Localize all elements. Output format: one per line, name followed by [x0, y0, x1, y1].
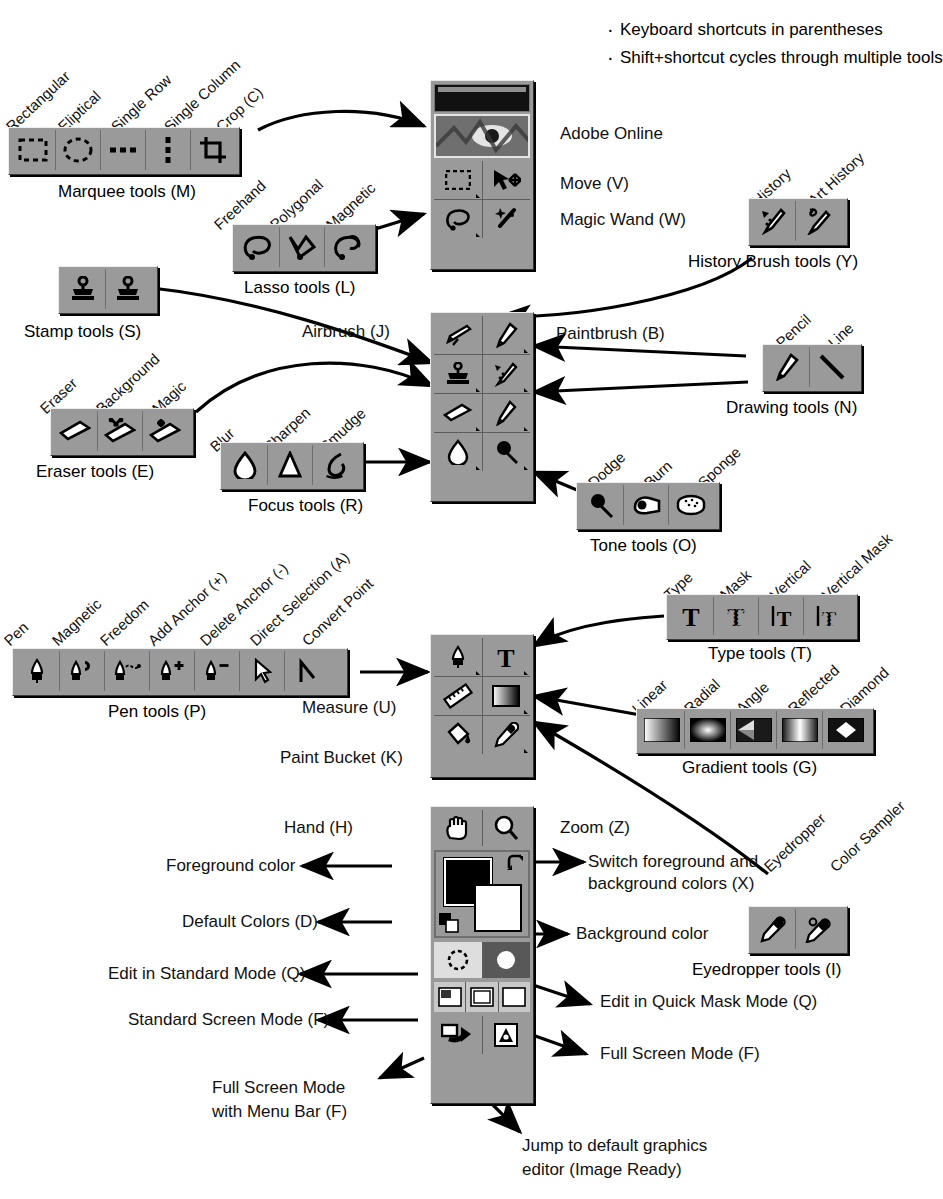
full-screen-mode-button[interactable]	[466, 982, 497, 1012]
tool-elliptical-marquee[interactable]	[55, 130, 100, 170]
tool-convert-point[interactable]	[284, 651, 329, 691]
tool-marquee[interactable]	[434, 161, 482, 199]
tool-magic-wand[interactable]	[483, 200, 531, 238]
tool-color-sampler[interactable]	[795, 909, 840, 949]
tool-pen[interactable]	[434, 638, 482, 676]
toolbox-vector-grid[interactable]: T	[434, 638, 530, 754]
tool-eraser[interactable]	[434, 394, 482, 432]
stamp-tools-strip[interactable]	[58, 266, 158, 314]
mask-mode-grid[interactable]	[434, 942, 530, 978]
type-tools-caption: Type tools (T)	[708, 644, 812, 664]
tool-linear-gradient[interactable]	[639, 711, 684, 749]
tool-vertical-type[interactable]: T	[758, 597, 803, 635]
tool-background-eraser[interactable]	[97, 411, 142, 451]
tool-type[interactable]: T	[669, 597, 713, 635]
jump-to-grid[interactable]	[434, 1016, 530, 1054]
tool-radial-gradient[interactable]	[684, 711, 730, 749]
focus-tools-strip[interactable]	[220, 442, 364, 490]
tool-eraser[interactable]	[53, 411, 97, 451]
switch-colors-icon[interactable]	[506, 854, 526, 872]
pen-tools-strip[interactable]	[12, 648, 348, 696]
drawing-tools-strip[interactable]	[762, 344, 862, 392]
tool-crop[interactable]	[190, 130, 235, 170]
history-brush-tools-strip[interactable]	[748, 198, 848, 246]
tool-vertical-type-mask[interactable]: T	[803, 597, 848, 635]
tool-blur[interactable]	[223, 445, 267, 485]
imageready-icon[interactable]	[483, 1016, 531, 1054]
toolbox-bottom-panel[interactable]	[430, 806, 534, 1104]
tone-tools-strip[interactable]	[576, 482, 720, 530]
eraser-tools-strip[interactable]	[50, 408, 194, 456]
edit-standard-mode-button[interactable]	[434, 942, 482, 978]
callout-magic-wand: Magic Wand (W)	[560, 210, 686, 230]
tool-direct-selection[interactable]	[239, 651, 284, 691]
tool-add-anchor-point[interactable]	[149, 651, 194, 691]
tool-paint-bucket[interactable]	[434, 716, 482, 754]
tool-angle-gradient[interactable]	[730, 711, 776, 749]
standard-screen-mode-button[interactable]	[434, 982, 465, 1012]
background-color-swatch[interactable]	[474, 884, 522, 932]
tool-eyedropper[interactable]	[751, 909, 795, 949]
tool-smudge[interactable]	[312, 445, 357, 485]
tool-type-mask[interactable]: T	[713, 597, 758, 635]
tool-stamp[interactable]	[434, 355, 482, 393]
marquee-tools-caption: Marquee tools (M)	[58, 182, 196, 202]
toolbox-selection-grid[interactable]	[434, 161, 530, 238]
tool-magnetic-pen[interactable]	[59, 651, 104, 691]
tool-line[interactable]	[809, 347, 854, 387]
tool-rubber-stamp[interactable]	[61, 269, 105, 309]
tool-pattern-stamp[interactable]	[105, 269, 150, 309]
tool-delete-anchor-point[interactable]	[194, 651, 239, 691]
toolbox-vector-panel[interactable]: T	[430, 634, 534, 778]
toolbox-nav-grid[interactable]	[434, 810, 530, 846]
adobe-online-button[interactable]	[434, 114, 530, 158]
default-colors-icon[interactable]	[439, 913, 459, 933]
tool-pencil[interactable]	[483, 394, 531, 432]
tool-hand[interactable]	[434, 810, 482, 846]
tool-lasso-polygonal[interactable]	[279, 227, 324, 267]
tool-type[interactable]: T	[483, 638, 531, 676]
tool-art-history-brush[interactable]	[795, 201, 840, 241]
tool-lasso-magnetic[interactable]	[324, 227, 369, 267]
color-swatch-area[interactable]	[434, 850, 530, 938]
jump-to-imageready-button[interactable]	[434, 1016, 482, 1054]
marquee-tools-strip[interactable]	[8, 127, 240, 175]
tool-lasso-freehand[interactable]	[235, 227, 279, 267]
toolbox-paint-grid[interactable]	[434, 316, 530, 471]
tool-blur[interactable]	[434, 433, 482, 471]
tool-history-brush[interactable]	[751, 201, 795, 241]
tool-burn[interactable]	[623, 485, 668, 525]
gradient-tools-strip[interactable]	[636, 708, 874, 754]
tool-history-brush[interactable]	[483, 355, 531, 393]
tool-reflected-gradient[interactable]	[776, 711, 822, 749]
tool-dodge[interactable]	[483, 433, 531, 471]
tool-paintbrush[interactable]	[483, 316, 531, 354]
tool-pencil[interactable]	[765, 347, 809, 387]
tool-lasso[interactable]	[434, 200, 482, 238]
lasso-tools-strip[interactable]	[232, 224, 376, 272]
toolbox-title-bar[interactable]	[434, 84, 530, 112]
toolbox-selection-panel[interactable]	[430, 80, 534, 270]
tool-single-row-marquee[interactable]	[100, 130, 145, 170]
tool-pen[interactable]	[15, 651, 59, 691]
edit-quick-mask-mode-button[interactable]	[483, 942, 531, 978]
toolbox-paint-panel[interactable]	[430, 312, 534, 502]
tool-sharpen[interactable]	[267, 445, 312, 485]
tool-measure[interactable]	[434, 677, 482, 715]
tool-diamond-gradient[interactable]	[822, 711, 868, 749]
tool-single-column-marquee[interactable]	[145, 130, 190, 170]
screen-mode-grid[interactable]	[434, 982, 530, 1012]
tool-sponge[interactable]	[668, 485, 713, 525]
full-screen-with-menu-button[interactable]	[499, 982, 530, 1012]
eyedropper-tools-strip[interactable]	[748, 906, 848, 954]
tool-freeform-pen[interactable]	[104, 651, 149, 691]
tool-eyedropper[interactable]	[483, 716, 531, 754]
tool-gradient[interactable]	[483, 677, 531, 715]
tool-move[interactable]	[483, 161, 531, 199]
type-tools-strip[interactable]: T T T T	[666, 594, 858, 640]
tool-dodge[interactable]	[579, 485, 623, 525]
tool-magic-eraser[interactable]	[142, 411, 187, 451]
tool-rectangular-marquee[interactable]	[11, 130, 55, 170]
tool-zoom[interactable]	[483, 810, 531, 846]
tool-airbrush[interactable]	[434, 316, 482, 354]
